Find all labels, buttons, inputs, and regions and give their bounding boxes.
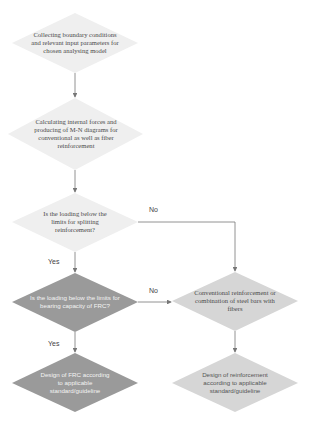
node-frc-question-text: Is the loading below the limits for bear… xyxy=(30,288,120,316)
node-design-frc-text: Design of FRC according to applicable st… xyxy=(40,369,110,397)
node-splitting-question-text: Is the loading below the limits for spli… xyxy=(38,208,112,236)
node-collect-text: Collecting boundary conditions and relev… xyxy=(30,25,120,61)
edge-label-splitting-yes: Yes xyxy=(48,258,59,265)
edge-label-frc-yes: Yes xyxy=(48,340,59,347)
node-calculate-text: Calculating internal forces and producin… xyxy=(24,114,128,154)
edge-label-frc-no: No xyxy=(149,287,158,294)
arrow-splitting-no xyxy=(138,222,235,271)
node-conventional-text: Conventional reinforcement or combinatio… xyxy=(192,287,278,315)
node-design-reinforcement-text: Design of reinforcement according to app… xyxy=(197,369,273,397)
edge-label-splitting-no: No xyxy=(149,206,158,213)
